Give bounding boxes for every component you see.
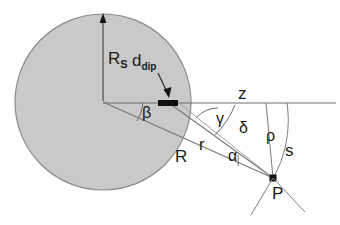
diagram-canvas: RS ddip β z γ δ ρ s r α R P [0,0,340,225]
r-label: r [199,136,205,153]
radius-star-label-text: R [108,49,120,68]
p-lower-left-line [251,178,273,215]
delta-label: δ [239,120,248,136]
dip-diameter-label: ddip [132,52,156,69]
R-label: R [175,148,187,165]
gamma-angle-arc [197,108,218,117]
radius-star-label: RS [108,50,128,67]
point-p-label: P [272,185,283,202]
s-label: s [285,142,294,159]
geometry-svg [0,0,340,225]
radius-star-label-sub: S [120,58,127,70]
gamma-label: γ [216,111,224,127]
z-label: z [238,85,247,102]
rho-label: ρ [266,128,275,144]
dip-diameter-label-sub: dip [141,61,156,72]
d-dip-bar [158,100,178,106]
dip-inner-ray-line [180,104,273,178]
alpha-label: α [228,148,237,164]
beta-label: β [142,105,151,121]
